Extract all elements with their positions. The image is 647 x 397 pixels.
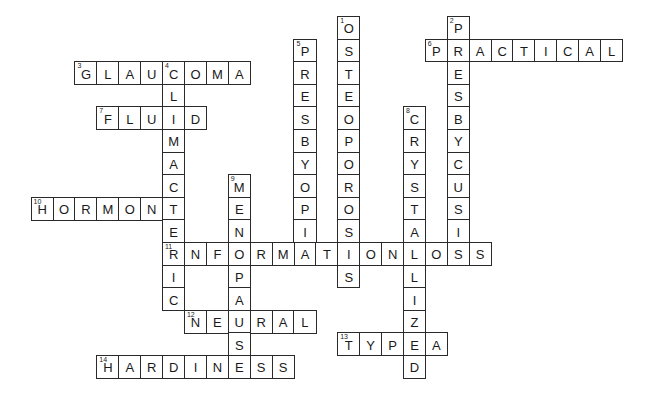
crossword-cell[interactable]: B xyxy=(293,129,316,153)
crossword-cell[interactable]: U xyxy=(140,61,163,85)
crossword-cell[interactable]: S xyxy=(447,84,470,108)
crossword-cell[interactable]: E xyxy=(162,219,185,243)
crossword-cell[interactable]: T xyxy=(315,242,338,266)
crossword-cell[interactable]: 7F xyxy=(96,106,119,130)
crossword-cell[interactable]: S xyxy=(337,265,360,289)
crossword-cell[interactable]: T xyxy=(337,61,360,85)
crossword-cell[interactable]: O xyxy=(337,197,360,221)
crossword-cell[interactable]: I xyxy=(293,219,316,243)
crossword-cell[interactable]: A xyxy=(469,39,492,63)
crossword-cell[interactable]: M xyxy=(206,61,229,85)
crossword-cell[interactable]: R xyxy=(140,355,163,379)
crossword-cell[interactable]: I xyxy=(447,219,470,243)
crossword-cell[interactable]: C xyxy=(162,174,185,198)
crossword-cell[interactable]: Y xyxy=(359,332,382,356)
crossword-cell[interactable]: O xyxy=(425,242,448,266)
crossword-cell[interactable]: U xyxy=(228,310,251,334)
crossword-cell[interactable]: R xyxy=(403,129,426,153)
crossword-cell[interactable]: D xyxy=(162,355,185,379)
crossword-cell[interactable]: E xyxy=(228,355,251,379)
crossword-cell[interactable]: A xyxy=(118,61,141,85)
crossword-cell[interactable]: R xyxy=(250,242,273,266)
crossword-cell[interactable]: C xyxy=(447,152,470,176)
crossword-cell[interactable]: P xyxy=(228,265,251,289)
crossword-cell[interactable]: A xyxy=(228,287,251,311)
crossword-cell[interactable]: A xyxy=(578,39,601,63)
crossword-cell[interactable]: S xyxy=(228,332,251,356)
crossword-cell[interactable]: E xyxy=(337,84,360,108)
crossword-cell[interactable]: D xyxy=(184,106,207,130)
crossword-cell[interactable]: Y xyxy=(293,152,316,176)
crossword-cell[interactable]: S xyxy=(337,219,360,243)
crossword-cell[interactable]: I xyxy=(184,355,207,379)
crossword-cell[interactable]: L xyxy=(96,61,119,85)
crossword-cell[interactable]: P xyxy=(381,332,404,356)
crossword-cell[interactable]: 8C xyxy=(403,106,426,130)
crossword-cell[interactable]: O xyxy=(53,197,76,221)
crossword-cell[interactable]: I xyxy=(534,39,557,63)
crossword-cell[interactable]: A xyxy=(403,219,426,243)
crossword-cell[interactable]: Y xyxy=(403,152,426,176)
crossword-cell[interactable]: O xyxy=(337,152,360,176)
crossword-cell[interactable]: C xyxy=(162,287,185,311)
crossword-cell[interactable]: U xyxy=(140,106,163,130)
crossword-cell[interactable]: M xyxy=(96,197,119,221)
crossword-cell[interactable]: N xyxy=(228,219,251,243)
crossword-cell[interactable]: T xyxy=(512,39,535,63)
crossword-cell[interactable]: I xyxy=(337,242,360,266)
crossword-cell[interactable]: L xyxy=(403,242,426,266)
crossword-cell[interactable]: O xyxy=(184,61,207,85)
crossword-cell[interactable]: S xyxy=(250,355,273,379)
crossword-cell[interactable]: E xyxy=(228,197,251,221)
crossword-cell[interactable]: 6P xyxy=(425,39,448,63)
crossword-cell[interactable]: N xyxy=(140,197,163,221)
crossword-cell[interactable]: D xyxy=(403,355,426,379)
crossword-cell[interactable]: S xyxy=(447,197,470,221)
crossword-cell[interactable]: A xyxy=(293,242,316,266)
crossword-cell[interactable]: 11R xyxy=(162,242,185,266)
crossword-cell[interactable]: O xyxy=(118,197,141,221)
crossword-cell[interactable]: R xyxy=(250,310,273,334)
crossword-cell[interactable]: O xyxy=(228,242,251,266)
crossword-cell[interactable]: L xyxy=(600,39,623,63)
crossword-cell[interactable]: P xyxy=(293,197,316,221)
crossword-cell[interactable]: T xyxy=(403,197,426,221)
crossword-cell[interactable]: O xyxy=(359,242,382,266)
crossword-cell[interactable]: M xyxy=(162,129,185,153)
crossword-cell[interactable]: R xyxy=(447,39,470,63)
crossword-cell[interactable]: E xyxy=(403,332,426,356)
crossword-cell[interactable]: S xyxy=(403,174,426,198)
crossword-cell[interactable]: S xyxy=(293,106,316,130)
crossword-cell[interactable]: A xyxy=(425,332,448,356)
crossword-cell[interactable]: A xyxy=(228,61,251,85)
crossword-cell[interactable]: A xyxy=(162,152,185,176)
crossword-cell[interactable]: 14H xyxy=(96,355,119,379)
crossword-cell[interactable]: I xyxy=(162,106,185,130)
crossword-cell[interactable]: E xyxy=(206,310,229,334)
crossword-cell[interactable]: R xyxy=(337,174,360,198)
crossword-cell[interactable]: C xyxy=(491,39,514,63)
crossword-cell[interactable]: A xyxy=(118,355,141,379)
crossword-cell[interactable]: N xyxy=(206,355,229,379)
crossword-cell[interactable]: 12N xyxy=(184,310,207,334)
crossword-cell[interactable]: S xyxy=(272,355,295,379)
crossword-cell[interactable]: M xyxy=(272,242,295,266)
crossword-cell[interactable]: C xyxy=(556,39,579,63)
crossword-cell[interactable]: 10H xyxy=(31,197,54,221)
crossword-cell[interactable]: 9M xyxy=(228,174,251,198)
crossword-cell[interactable]: B xyxy=(447,106,470,130)
crossword-cell[interactable]: L xyxy=(162,84,185,108)
crossword-cell[interactable]: 4C xyxy=(162,61,185,85)
crossword-cell[interactable]: P xyxy=(337,129,360,153)
crossword-cell[interactable]: Y xyxy=(447,129,470,153)
crossword-cell[interactable]: 3G xyxy=(74,61,97,85)
crossword-cell[interactable]: O xyxy=(337,106,360,130)
crossword-cell[interactable]: N xyxy=(381,242,404,266)
crossword-cell[interactable]: L xyxy=(403,265,426,289)
crossword-cell[interactable]: E xyxy=(447,61,470,85)
crossword-cell[interactable]: 13T xyxy=(337,332,360,356)
crossword-cell[interactable]: T xyxy=(162,197,185,221)
crossword-cell[interactable]: S xyxy=(469,242,492,266)
crossword-cell[interactable]: N xyxy=(184,242,207,266)
crossword-cell[interactable]: I xyxy=(403,287,426,311)
